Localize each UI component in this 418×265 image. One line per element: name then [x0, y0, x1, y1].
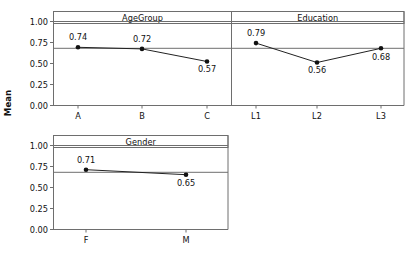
y-axis-row2: 1.00 0.75 0.50 0.25 0.00 [30, 141, 228, 235]
data-label-gender-M: 0.65 [177, 178, 195, 188]
y-tick-label-0.50-row2: 0.50 [30, 183, 48, 193]
y-axis-title: Mean [3, 90, 13, 116]
data-label-agegroup-A: 0.74 [69, 32, 87, 42]
data-label-gender-F: 0.71 [77, 155, 95, 165]
y-axis-title-text: Mean [3, 90, 13, 116]
y-axis-row1: 1.00 0.75 0.50 0.25 0.00 [30, 17, 404, 111]
data-point-gender-M [184, 172, 189, 177]
y-tick-label-0.75: 0.75 [30, 38, 48, 48]
y-tick-label-0.25: 0.25 [30, 80, 48, 90]
y-tick-label-1.00: 1.00 [30, 17, 48, 27]
y-tick-label-0.25-row2: 0.25 [30, 204, 48, 214]
panel-agegroup: AgeGroup 0.74 0.72 0.57 A B C [54, 12, 232, 122]
data-point-gender-F [84, 167, 89, 172]
x-label-agegroup-A: A [75, 111, 81, 121]
x-label-agegroup-B: B [139, 111, 145, 121]
main-effects-plot: Mean 1.00 0.75 0.50 0.25 0.00 AgeGroup [0, 0, 418, 265]
data-point-education-L3 [379, 46, 384, 51]
y-tick-label-0.00-row2: 0.00 [30, 225, 48, 235]
x-label-gender-F: F [84, 235, 89, 245]
data-label-education-L1: 0.79 [247, 28, 265, 38]
y-tick-label-0.75-row2: 0.75 [30, 162, 48, 172]
y-tick-label-0.00: 0.00 [30, 101, 48, 111]
panel-education-series-line [256, 43, 381, 62]
x-label-agegroup-C: C [204, 111, 210, 121]
y-tick-label-0.50: 0.50 [30, 59, 48, 69]
x-label-education-L3: L3 [376, 111, 386, 121]
panel-education: Education 0.79 0.56 0.68 L1 L2 L3 [232, 12, 405, 122]
panel-gender: Gender 0.71 0.65 F M [54, 136, 229, 246]
data-point-agegroup-B [140, 47, 145, 52]
data-point-agegroup-A [76, 45, 81, 50]
x-label-education-L1: L1 [251, 111, 261, 121]
data-point-education-L1 [254, 41, 259, 46]
y-tick-label-1.00-row2: 1.00 [30, 141, 48, 151]
data-label-education-L3: 0.68 [372, 52, 390, 62]
x-label-gender-M: M [182, 235, 189, 245]
data-label-education-L2: 0.56 [308, 65, 326, 75]
x-label-education-L2: L2 [312, 111, 322, 121]
data-label-agegroup-B: 0.72 [133, 34, 151, 44]
data-label-agegroup-C: 0.57 [198, 64, 216, 74]
